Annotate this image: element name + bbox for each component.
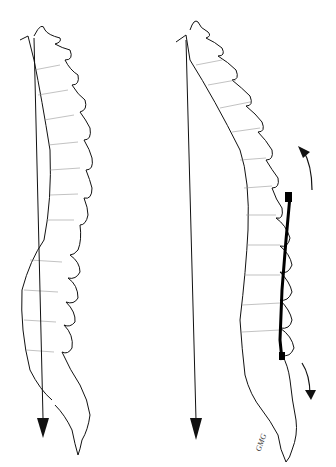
- right-spine: [176, 21, 297, 462]
- right-plumb-line: [186, 40, 202, 440]
- left-spine: [20, 26, 92, 455]
- spine-illustration: [0, 0, 336, 467]
- upper-rotation-arrow-icon: [298, 146, 312, 190]
- lower-rotation-arrow-icon: [302, 363, 316, 400]
